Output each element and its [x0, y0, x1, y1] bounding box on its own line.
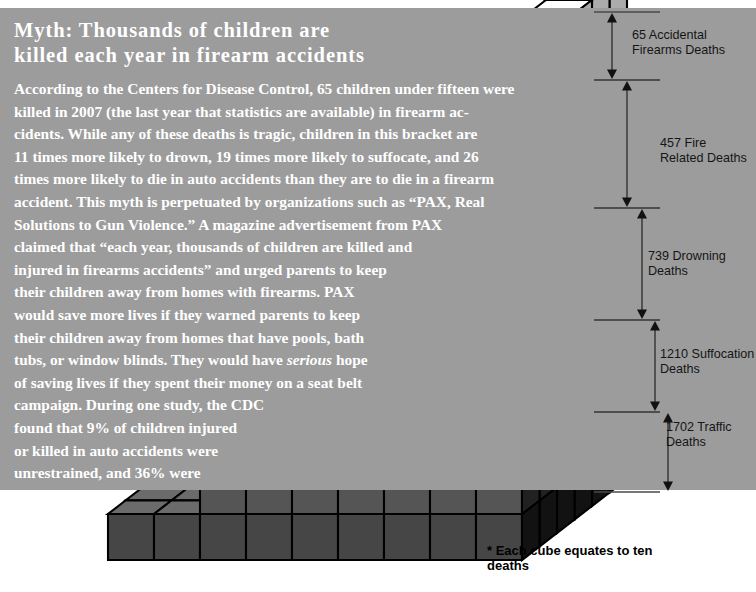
arrowhead — [650, 321, 660, 331]
arrowhead — [607, 13, 617, 23]
arrowhead — [622, 198, 632, 208]
measurement-label-traffic: 1702 Traffic Deaths — [666, 420, 732, 450]
arrowhead — [650, 402, 660, 412]
arrowhead — [622, 81, 632, 91]
footnote-cube-legend: * Each cube equates to ten deaths — [487, 543, 737, 573]
measurement-label-fire-related: 457 Fire Related Deaths — [660, 136, 747, 166]
arrowhead — [607, 70, 617, 80]
infographic-root: Myth: Thousands of children arekilled ea… — [0, 0, 756, 592]
arrowhead — [637, 209, 647, 219]
measurement-label-suffocation: 1210 Suffocation Deaths — [660, 347, 754, 377]
measurement-brackets — [0, 0, 756, 592]
measurement-label-drowning: 739 Drowning Deaths — [648, 249, 726, 279]
arrowhead — [663, 482, 673, 492]
measurement-label-accidental-firearms: 65 Accidental Firearms Deaths — [632, 28, 725, 58]
arrowhead — [637, 310, 647, 320]
